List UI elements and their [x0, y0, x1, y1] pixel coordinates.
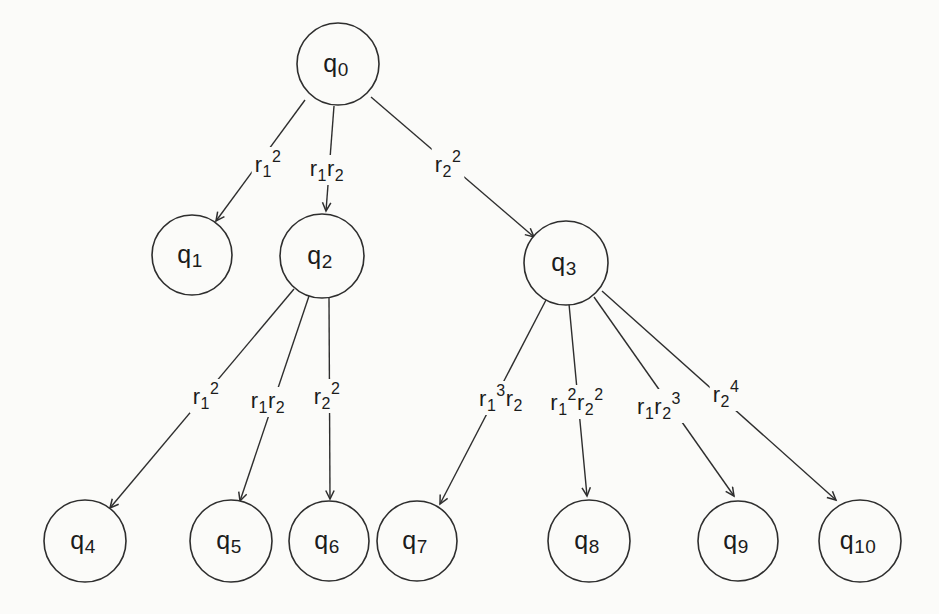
node-q10: q10 [819, 500, 901, 582]
node-q0: q0 [297, 23, 379, 105]
node-q2: q2 [280, 214, 364, 298]
diagram-canvas: r12r1r2r22r12r1r2r22r13r2r12r22r1r23r24q… [0, 0, 939, 614]
state-tree-svg: r12r1r2r22r12r1r2r22r13r2r12r22r1r23r24q… [0, 0, 939, 614]
node-q5: q5 [190, 500, 272, 582]
node-q7: q7 [377, 501, 457, 581]
edges-layer [110, 97, 836, 508]
node-q4: q4 [44, 500, 126, 582]
node-q6: q6 [289, 501, 369, 581]
edge-labels-layer: r12r1r2r22r12r1r2r22r13r2r12r22r1r23r24 [190, 147, 743, 423]
node-q9: q9 [698, 501, 778, 581]
page: { "page": { "background": "#fbfbf9", "in… [0, 0, 939, 614]
node-q1: q1 [152, 215, 232, 295]
nodes-layer: q0q1q2q3q4q5q6q7q8q9q10 [44, 23, 901, 582]
node-q8: q8 [548, 500, 630, 582]
node-q3: q3 [524, 221, 608, 305]
